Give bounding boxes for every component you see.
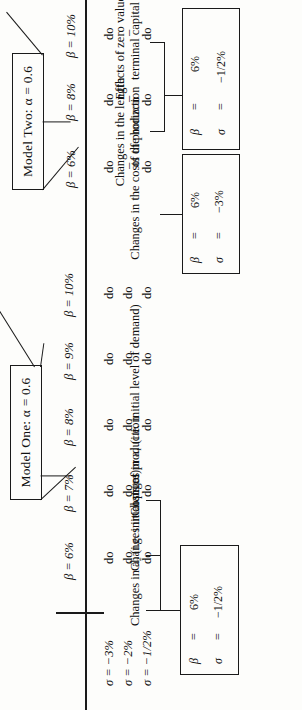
base-case-box (180, 545, 239, 675)
model-two-col-header-2: β = 10% (64, 14, 79, 58)
upper-callout-sigma-label: σ (212, 257, 227, 263)
table-horizontal-rule (85, 0, 87, 710)
model-two-title: Model Two: α = 0.6 (20, 66, 36, 177)
model-one-leader-4 (0, 307, 35, 367)
model-one-row-label-0: σ = −3% (102, 640, 117, 686)
figure-stage: Model One: α = 0.6 β = 6% β = 7% β = 8% … (0, 0, 302, 710)
lower-callout-bracket-tick-1 (150, 42, 165, 43)
model-two-leader-3 (6, 12, 43, 56)
base-case-beta-value: 6% (187, 594, 202, 610)
model-one-title-box: Model One: α = 0.6 (10, 365, 42, 500)
base-case-bracket-stem (160, 610, 180, 611)
base-case-sigma-value: −1/2% (211, 586, 226, 618)
base-case-bracket-tick-0 (146, 610, 161, 611)
lower-callout-bracket-stem (164, 95, 182, 96)
upper-callout-leader (160, 214, 182, 215)
lower-callout-beta-label: β (188, 129, 203, 135)
model-two-leader-2 (43, 121, 71, 122)
lower-callout-bracket-spine (164, 42, 165, 132)
model-one-col-header-0: β = 6% (62, 542, 77, 580)
model-one-cell-2-4: do (140, 287, 155, 300)
model-one-cell-0-3: do (102, 353, 117, 366)
base-case-beta-eq: = (187, 633, 202, 640)
upper-callout-box (182, 154, 240, 274)
model-one-col-header-1: β = 7% (62, 474, 77, 512)
base-case-bracket-tick-1 (146, 555, 161, 556)
base-case-beta-label: β (187, 658, 202, 664)
upper-callout-sigma-eq: = (212, 232, 227, 239)
lower-callout-annotation-1: Effects of zero value of terminal capita… (113, 0, 143, 101)
model-two-col-header-0: β = 6% (64, 150, 79, 188)
lower-callout-sigma-label: σ (214, 129, 229, 135)
model-one-col-header-2: β = 8% (62, 408, 77, 446)
model-one-cell-0-0: do (102, 552, 117, 565)
model-one-col-header-4: β = 10% (62, 273, 77, 317)
model-one-cell-0-2: do (102, 419, 117, 432)
base-case-bracket-tick-2 (146, 500, 161, 501)
lower-callout-sigma-value: −1/2% (214, 51, 229, 83)
model-one-title: Model One: α = 0.6 (18, 377, 34, 487)
row-label-separator-rule (56, 612, 104, 614)
model-one-cell-0-1: do (102, 485, 117, 498)
lower-callout-beta-eq: = (188, 103, 203, 110)
model-one-leader-3 (40, 343, 45, 367)
upper-callout-beta-label: β (188, 257, 203, 263)
model-one-row-label-2: σ = −1/2% (140, 630, 155, 686)
model-two-title-box: Model Two: α = 0.6 (12, 53, 44, 190)
lower-callout-sigma-eq: = (214, 103, 229, 110)
upper-callout-beta-eq: = (188, 232, 203, 239)
lower-callout-bracket-tick-0 (150, 131, 165, 132)
base-case-sigma-label: σ (211, 658, 226, 664)
model-one-col-header-3: β = 9% (62, 342, 77, 380)
base-case-annotation-2: Changes in a₁ (i.e. initial level of dem… (128, 304, 143, 516)
upper-callout-sigma-value: −3% (212, 190, 227, 213)
lower-callout-beta-value: 6% (188, 56, 203, 72)
base-case-sigma-eq: = (211, 633, 226, 640)
model-one-cell-1-4: do (121, 287, 136, 300)
upper-callout-beta-value: 6% (188, 192, 203, 208)
model-two-col-header-1: β = 8% (64, 83, 79, 121)
model-one-cell-0-4: do (102, 287, 117, 300)
model-one-row-label-1: σ = −2% (121, 640, 136, 686)
